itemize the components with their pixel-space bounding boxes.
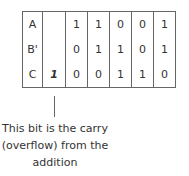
bit-cell: 0 [66, 62, 88, 88]
row-label: B' [23, 37, 43, 62]
bit-cell: 0 [132, 37, 154, 62]
row-a: A 1 1 0 0 1 [23, 12, 176, 38]
bit-cell: 1 [154, 37, 176, 62]
bit-cell: 0 [154, 62, 176, 88]
row-c-result: C 1 0 0 1 1 0 [23, 62, 176, 88]
row-b-complement: B' 0 1 1 0 1 [23, 37, 176, 62]
bit-cell: 1 [110, 37, 132, 62]
annotation-line: This bit is the carry [0, 120, 110, 137]
bit-cell: 1 [110, 62, 132, 88]
bit-cell: 0 [88, 62, 110, 88]
row-label: A [23, 12, 43, 38]
bit-cell: 1 [154, 12, 176, 38]
annotation-line: addition [0, 154, 110, 171]
bit-cell: 0 [132, 12, 154, 38]
binary-addition-table: A 1 1 0 0 1 B' 0 1 1 0 1 C 1 0 0 1 1 0 [22, 11, 176, 88]
carry-bit: 1 [43, 62, 66, 88]
annotation-pointer-line [54, 96, 55, 117]
annotation-line: (overflow) from the [0, 137, 110, 154]
row-label: C [23, 62, 43, 88]
bit-cell: 0 [66, 37, 88, 62]
bit-cell: 1 [132, 62, 154, 88]
bit-cell: 0 [110, 12, 132, 38]
bit-cell: 1 [88, 37, 110, 62]
carry-cell [43, 37, 66, 62]
bit-cell: 1 [66, 12, 88, 38]
carry-annotation: This bit is the carry (overflow) from th… [0, 120, 110, 171]
bit-cell: 1 [88, 12, 110, 38]
carry-cell [43, 12, 66, 38]
